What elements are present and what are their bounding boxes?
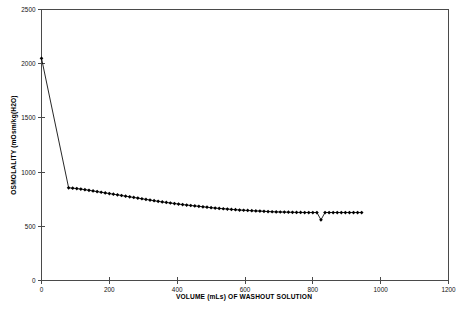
data-point-marker: [71, 186, 75, 190]
data-point-marker: [87, 188, 91, 192]
data-point-marker: [303, 211, 307, 215]
y-axis-tick-labels: 05001000150020002500: [21, 6, 36, 284]
data-point-marker: [156, 200, 160, 204]
data-point-marker: [185, 203, 189, 207]
data-point-marker: [295, 211, 299, 215]
data-point-marker: [40, 56, 44, 60]
data-point-marker: [254, 209, 258, 213]
data-point-marker: [327, 211, 331, 215]
data-point-marker: [136, 196, 140, 200]
data-point-marker: [299, 211, 303, 215]
data-series-layer: [40, 56, 364, 221]
data-point-marker: [331, 211, 335, 215]
data-point-marker: [79, 187, 83, 191]
x-tick-label: 600: [240, 286, 251, 293]
data-point-marker: [181, 203, 185, 207]
data-point-marker: [262, 209, 266, 213]
x-tick-label: 400: [172, 286, 183, 293]
data-point-marker: [169, 201, 173, 205]
data-point-marker: [291, 210, 295, 214]
data-point-marker: [148, 198, 152, 202]
y-tick-label: 2000: [21, 60, 36, 67]
data-point-marker: [238, 208, 242, 212]
data-point-marker: [274, 210, 278, 214]
data-point-marker: [201, 205, 205, 209]
data-point-marker: [323, 211, 327, 215]
y-axis-title: OSMOLALITY (mOsm/kg(H2O): [10, 95, 18, 194]
data-point-marker: [128, 195, 132, 199]
data-point-marker: [144, 198, 148, 202]
data-point-marker: [189, 204, 193, 208]
y-tick-label: 0: [32, 277, 36, 284]
data-point-marker: [266, 210, 270, 214]
data-point-marker: [209, 206, 213, 210]
data-point-marker: [205, 205, 209, 209]
y-tick-label: 1500: [21, 114, 36, 121]
data-point-marker: [348, 211, 352, 215]
x-tick-label: 1200: [441, 286, 456, 293]
data-point-marker: [258, 209, 262, 213]
x-tick-label: 0: [40, 286, 44, 293]
data-point-marker: [197, 205, 201, 209]
data-point-marker: [287, 210, 291, 214]
data-point-marker: [270, 210, 274, 214]
data-point-marker: [246, 209, 250, 213]
data-point-marker: [91, 189, 95, 193]
data-point-marker: [67, 186, 71, 190]
data-point-marker: [160, 200, 164, 204]
x-tick-label: 1000: [374, 286, 389, 293]
data-point-marker: [173, 202, 177, 206]
data-point-marker: [352, 211, 356, 215]
data-point-marker: [132, 196, 136, 200]
data-point-marker: [116, 193, 120, 197]
y-tick-label: 1000: [21, 169, 36, 176]
data-point-marker: [217, 207, 221, 211]
data-point-marker: [107, 192, 111, 196]
data-point-marker: [335, 211, 339, 215]
data-point-marker: [193, 204, 197, 208]
data-point-marker: [311, 211, 315, 215]
data-point-marker: [344, 211, 348, 215]
data-point-marker: [315, 211, 319, 215]
data-point-marker: [103, 191, 107, 195]
data-point-marker: [95, 190, 99, 194]
data-point-marker: [152, 199, 156, 203]
data-point-marker: [140, 197, 144, 201]
data-point-marker: [99, 190, 103, 194]
data-point-marker: [356, 211, 360, 215]
data-point-marker: [124, 194, 128, 198]
data-point-marker: [278, 210, 282, 214]
data-point-marker: [164, 201, 168, 205]
data-point-marker: [339, 211, 343, 215]
data-point-marker: [242, 208, 246, 212]
x-tick-label: 800: [307, 286, 318, 293]
x-axis-title: VOLUME (mLs) OF WASHOUT SOLUTION: [176, 293, 312, 301]
x-axis-tick-labels: 020040060080010001200: [40, 286, 456, 293]
data-point-marker: [307, 211, 311, 215]
data-point-marker: [177, 202, 181, 206]
data-point-marker: [282, 210, 286, 214]
data-point-marker: [230, 208, 234, 212]
chart-figure: 05001000150020002500 0200400600800100012…: [0, 0, 468, 312]
data-point-marker: [83, 188, 87, 192]
data-point-marker: [319, 218, 323, 222]
osmolality-vs-volume-chart: 05001000150020002500 0200400600800100012…: [0, 0, 468, 312]
data-point-marker: [234, 208, 238, 212]
data-point-marker: [221, 207, 225, 211]
y-tick-label: 500: [25, 223, 36, 230]
data-point-marker: [112, 192, 116, 196]
data-point-marker: [213, 206, 217, 210]
data-point-marker: [120, 194, 124, 198]
data-point-marker: [360, 211, 364, 215]
data-point-marker: [250, 209, 254, 213]
y-tick-label: 2500: [21, 6, 36, 13]
data-point-marker: [226, 207, 230, 211]
x-tick-label: 200: [104, 286, 115, 293]
series-line: [42, 58, 362, 220]
data-point-marker: [75, 187, 79, 191]
plot-frame: [42, 10, 449, 281]
